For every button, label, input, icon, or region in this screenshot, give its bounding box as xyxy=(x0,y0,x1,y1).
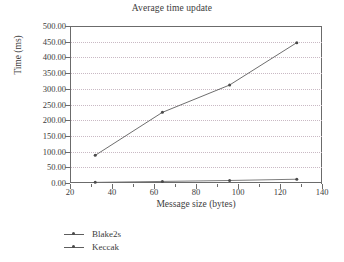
y-axis-tick-label: 150.00 xyxy=(16,131,66,141)
gridline xyxy=(71,89,322,91)
gridline xyxy=(71,167,322,169)
gridline xyxy=(71,57,322,59)
y-axis-tick-mark xyxy=(65,120,70,121)
x-axis-tick-mark xyxy=(280,184,281,189)
y-axis-tick-label: 350.00 xyxy=(16,68,66,78)
legend-item-label: Blake2s xyxy=(92,229,121,239)
chart-figure: Average time update Time (ms) 0.0050.001… xyxy=(0,0,344,262)
x-axis-minor-tick-mark xyxy=(259,184,260,187)
x-axis-label: Message size (bytes) xyxy=(70,199,322,209)
y-axis-tick-mark xyxy=(65,73,70,74)
chart-legend: Blake2sKeccak xyxy=(63,228,121,254)
x-axis-minor-tick-mark xyxy=(133,184,134,187)
x-axis-tick-mark xyxy=(154,184,155,189)
y-axis-tick-label: 100.00 xyxy=(16,147,66,157)
legend-marker-icon xyxy=(63,230,85,239)
y-axis-tick-mark xyxy=(65,89,70,90)
x-axis-tick-mark xyxy=(70,184,71,189)
y-axis-tick-mark xyxy=(65,26,70,27)
x-axis-tick-mark xyxy=(238,184,239,189)
x-axis-minor-tick-mark xyxy=(301,184,302,187)
x-axis-minor-tick-mark xyxy=(175,184,176,187)
y-axis-tick-mark xyxy=(65,42,70,43)
legend-marker-icon xyxy=(63,243,85,252)
legend-item-keccak[interactable]: Keccak xyxy=(63,241,121,253)
y-axis-tick-label: 500.00 xyxy=(16,21,66,31)
y-axis-tick-mark xyxy=(65,136,70,137)
y-axis-tick-mark xyxy=(65,105,70,106)
gridline xyxy=(71,136,322,138)
y-axis-tick-mark xyxy=(65,57,70,58)
x-axis-tick-mark xyxy=(196,184,197,189)
chart-title: Average time update xyxy=(0,3,344,13)
x-axis-tick-mark xyxy=(112,184,113,189)
legend-item-label: Keccak xyxy=(92,242,119,252)
plot-area xyxy=(70,26,322,183)
x-axis-minor-tick-mark xyxy=(91,184,92,187)
y-axis-tick-label: 300.00 xyxy=(16,84,66,94)
gridline xyxy=(71,73,322,75)
gridline xyxy=(71,105,322,107)
x-axis-tick-mark xyxy=(322,184,323,189)
legend-item-blake2s[interactable]: Blake2s xyxy=(63,228,121,240)
y-axis-tick-mark xyxy=(65,167,70,168)
y-axis-tick-label: 450.00 xyxy=(16,37,66,47)
gridline xyxy=(71,42,322,44)
gridline xyxy=(71,120,322,122)
x-axis-minor-tick-mark xyxy=(217,184,218,187)
y-axis-tick-label: 400.00 xyxy=(16,52,66,62)
y-axis-tick-label: 250.00 xyxy=(16,100,66,110)
y-axis-tick-label: 50.00 xyxy=(16,162,66,172)
y-axis-tick-label: 200.00 xyxy=(16,115,66,125)
y-axis-tick-mark xyxy=(65,152,70,153)
gridline xyxy=(71,152,322,154)
